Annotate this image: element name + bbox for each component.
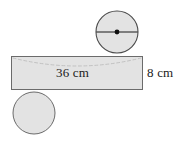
height-label: 8 cm: [147, 66, 173, 79]
center-dot-icon: [115, 30, 120, 35]
cylinder-net-figure: 36 cm 8 cm: [0, 0, 193, 148]
width-label: 36 cm: [56, 66, 89, 79]
bottom-circle: [13, 92, 55, 134]
